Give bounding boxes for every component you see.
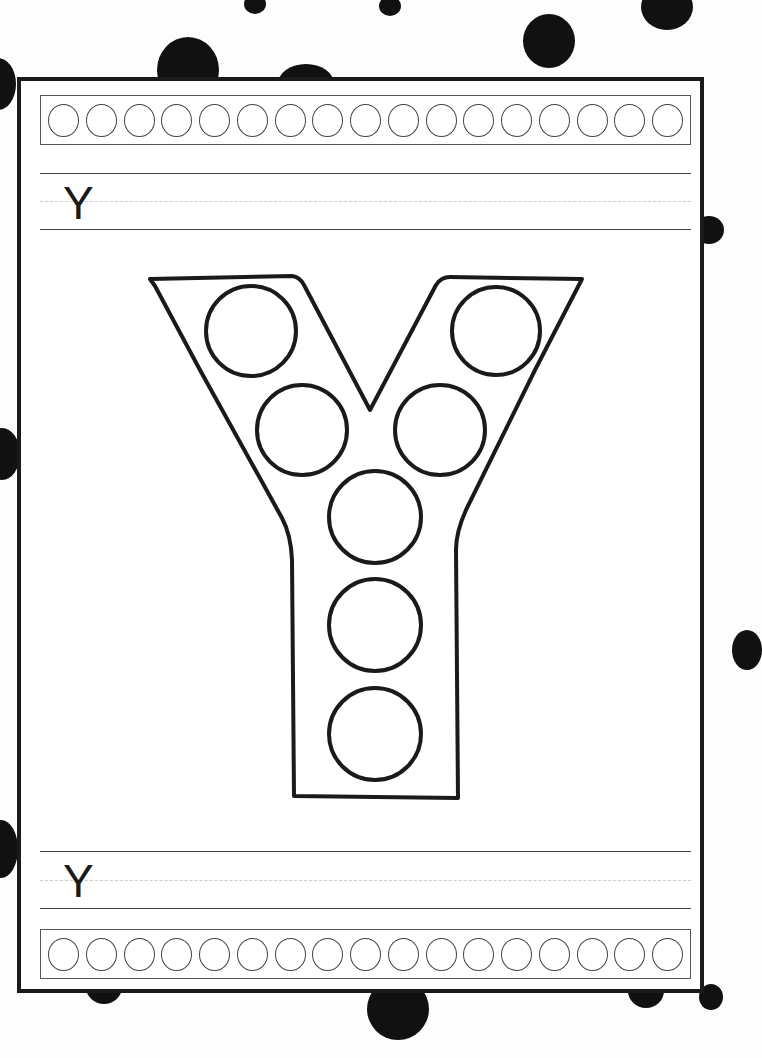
dot-circle xyxy=(329,579,421,671)
dot-circle xyxy=(395,385,485,475)
dot-circle xyxy=(452,287,540,375)
dot-circle xyxy=(257,385,347,475)
dot-circle xyxy=(329,688,421,780)
dot-circle xyxy=(329,471,421,563)
letter-dot-circles xyxy=(206,286,540,780)
dot-circle xyxy=(206,286,296,376)
